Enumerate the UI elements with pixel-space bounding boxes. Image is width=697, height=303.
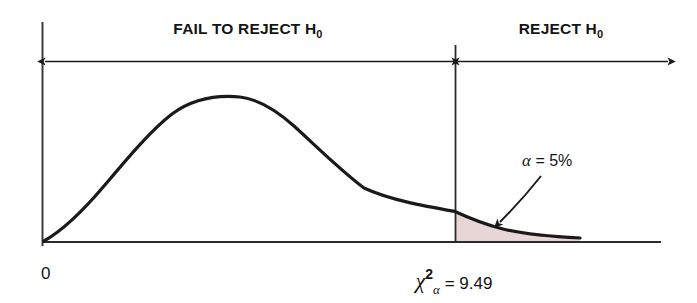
chi-exponent: 2 (425, 266, 433, 282)
critical-value-label: χ2α = 9.49 (414, 266, 493, 297)
chi-square-rejection-region-figure: FAIL TO REJECT H0 REJECT H0 α = 5% 0 χ2α… (0, 0, 697, 303)
alpha-level-annotation: α = 5% (522, 151, 572, 170)
alpha-value: = 5% (531, 152, 572, 169)
fail-to-reject-region-label-text: FAIL TO REJECT H (173, 20, 316, 37)
chart-canvas: FAIL TO REJECT H0 REJECT H0 α = 5% 0 χ2α… (0, 0, 697, 303)
critical-value-number: = 9.49 (440, 274, 492, 293)
alpha-callout-arrow (500, 176, 541, 222)
reject-region-label-text: REJECT H (519, 20, 597, 37)
fail-to-reject-region-label: FAIL TO REJECT H0 (173, 20, 322, 40)
fail-to-reject-region-label-subscript: 0 (316, 28, 322, 40)
origin-axis-label: 0 (41, 264, 50, 283)
reject-region-label-subscript: 0 (597, 28, 603, 40)
reject-region-label: REJECT H0 (519, 20, 604, 40)
chi-square-density-curve (44, 96, 580, 241)
